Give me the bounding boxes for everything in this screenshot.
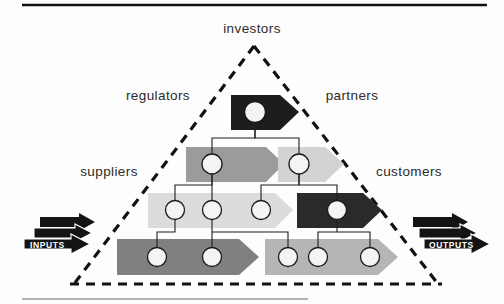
node-level2-2[interactable] bbox=[289, 154, 309, 174]
node-level3-2[interactable] bbox=[203, 201, 222, 220]
label-customers: customers bbox=[376, 164, 442, 179]
node-level1-1[interactable] bbox=[245, 102, 266, 123]
label-regulators: regulators bbox=[126, 88, 190, 103]
node-level3-4[interactable] bbox=[328, 201, 347, 220]
node-level4-2[interactable] bbox=[203, 248, 222, 267]
label-investors: investors bbox=[223, 21, 281, 36]
node-level4-3[interactable] bbox=[279, 248, 298, 267]
node-level4-5[interactable] bbox=[361, 248, 380, 267]
level4-arrow-left bbox=[117, 239, 259, 275]
outputs-label: OUTPUTS bbox=[429, 240, 474, 250]
diagram-canvas: INPUTS OUTPUTS bbox=[0, 0, 504, 304]
node-level2-1[interactable] bbox=[202, 154, 222, 174]
node-level4-4[interactable] bbox=[309, 248, 328, 267]
level2-arrow-left bbox=[186, 147, 284, 182]
inputs-label: INPUTS bbox=[30, 240, 65, 250]
label-suppliers: suppliers bbox=[80, 164, 138, 179]
node-level3-3[interactable] bbox=[252, 201, 271, 220]
node-level4-1[interactable] bbox=[148, 248, 167, 267]
node-level3-1[interactable] bbox=[166, 201, 185, 220]
label-partners: partners bbox=[326, 88, 379, 103]
